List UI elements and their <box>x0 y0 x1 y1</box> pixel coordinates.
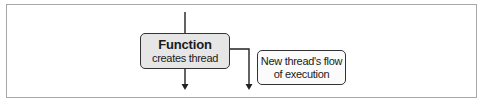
main-flow-arrowhead-icon <box>182 84 189 90</box>
function-node-subtitle: creates thread <box>141 52 229 65</box>
connector-lines <box>0 0 483 103</box>
function-node-title: Function <box>141 37 229 52</box>
new-thread-arrowhead-icon <box>246 84 253 90</box>
function-node: Function creates thread <box>140 33 230 69</box>
new-thread-line <box>230 49 249 85</box>
new-thread-node-line2: of execution <box>258 68 345 81</box>
new-thread-node: New thread's flow of execution <box>257 50 346 85</box>
new-thread-node-line1: New thread's flow <box>258 55 345 68</box>
